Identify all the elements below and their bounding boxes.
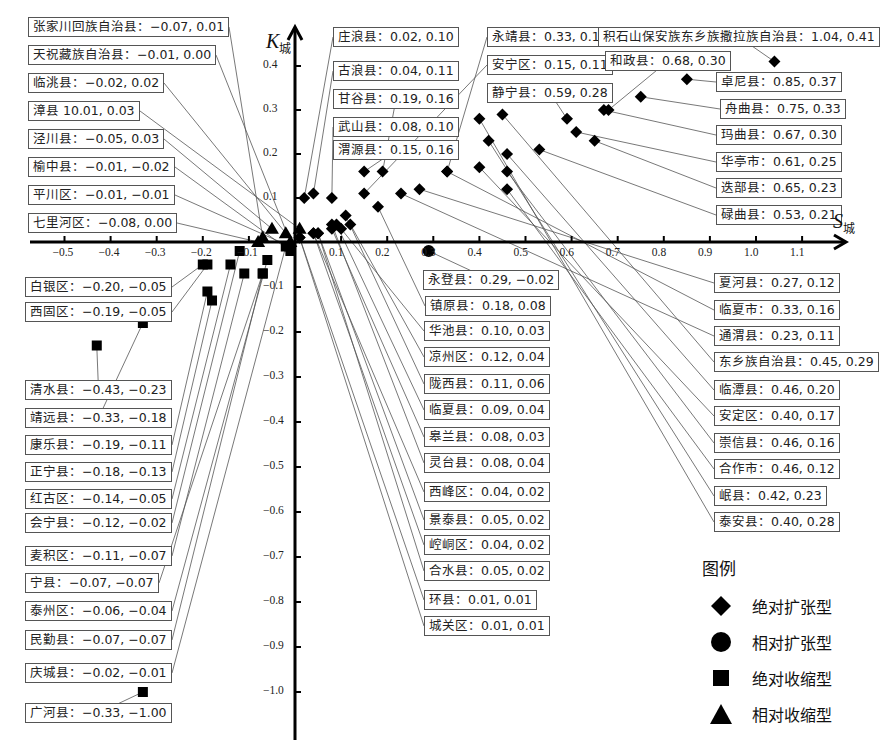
point-label: 灵台县：0.08, 0.04	[424, 453, 550, 473]
point-label: 七里河区：−0.08, 0.00	[28, 213, 177, 233]
point-label: 崆峒区：0.04, 0.02	[424, 535, 550, 555]
leader-line	[350, 224, 424, 357]
y-tick-label: 0.1	[263, 190, 277, 202]
square-marker	[225, 260, 235, 270]
x-tick-label: 0.4	[467, 246, 481, 258]
x-tick-label: −0.4	[99, 246, 120, 258]
point-label: 永靖县：0.33, 0.16	[487, 27, 613, 47]
x-axis-title: S城	[833, 210, 855, 236]
diamond-marker	[561, 113, 573, 125]
x-tick-label: 1.1	[790, 246, 804, 258]
leader-line	[332, 127, 333, 198]
leader-line	[304, 37, 333, 198]
diamond-icon	[710, 595, 732, 617]
point-label: 广河县：−0.33, −1.00	[25, 703, 172, 723]
square-marker	[202, 260, 212, 270]
x-tick-label: 0.5	[514, 246, 528, 258]
point-label: 迭部县：0.65, 0.23	[716, 178, 842, 198]
x-tick-label: 0.7	[606, 246, 620, 258]
point-label: 景泰县：0.05, 0.02	[424, 510, 550, 530]
point-label: 临夏市：0.33, 0.16	[714, 300, 840, 320]
point-label: 庆城县：−0.02, −0.01	[25, 663, 172, 683]
legend-item-absolute-expansion: 绝对扩张型	[702, 588, 882, 624]
triangle-icon	[710, 703, 732, 725]
leader-line	[576, 132, 716, 162]
point-label: 华池县：0.10, 0.03	[424, 321, 550, 341]
legend: 图例 绝对扩张型 相对扩张型 绝对收缩型 相对收缩型	[702, 555, 882, 732]
leader-line	[595, 141, 716, 188]
diamond-marker	[635, 91, 647, 103]
point-label: 泰安县：0.40, 0.28	[714, 512, 840, 532]
point-label: 临洮县：−0.02, 0.02	[28, 73, 164, 93]
diamond-marker	[413, 183, 425, 195]
point-label: 合作市：0.46, 0.12	[714, 459, 840, 479]
point-label: 临潭县：0.46, 0.20	[714, 380, 840, 400]
x-tick-label: 1.0	[744, 246, 758, 258]
square-marker	[207, 296, 217, 306]
point-label: 碌曲县：0.53, 0.21	[716, 205, 842, 225]
leader-line	[172, 265, 207, 313]
legend-title: 图例	[702, 555, 882, 580]
point-label: 夏河县：0.27, 0.12	[714, 273, 840, 293]
y-tick-label: 0.3	[263, 102, 277, 114]
point-label: 白银区：−0.20, −0.05	[25, 277, 172, 297]
point-label: 和政县：0.68, 0.30	[605, 51, 731, 71]
leader-line	[159, 274, 263, 584]
x-tick-label: −0.1	[237, 246, 258, 258]
leader-line	[177, 223, 258, 242]
point-label: 皋兰县：0.08, 0.03	[424, 427, 550, 447]
point-label: 舟曲县：0.75, 0.33	[720, 99, 846, 119]
diamond-marker	[441, 166, 453, 178]
legend-label: 相对收缩型	[752, 702, 832, 726]
y-tick-label: −0.2	[263, 324, 284, 336]
y-tick-label: −0.1	[263, 279, 284, 291]
point-label: 合水县：0.05, 0.02	[424, 561, 550, 581]
leader-line	[300, 238, 424, 600]
x-tick-label: 0.9	[698, 246, 712, 258]
y-tick-label: −0.3	[263, 369, 284, 381]
y-tick-label: −0.8	[263, 594, 284, 606]
point-label: 临夏县：0.09, 0.04	[424, 400, 550, 420]
point-label: 泰州区：−0.06, −0.04	[25, 601, 172, 621]
diamond-marker	[358, 166, 370, 178]
point-label: 会宁县：−0.12, −0.02	[25, 513, 172, 533]
point-label: 麦积区：−0.11, −0.07	[25, 546, 172, 566]
diamond-marker	[473, 113, 485, 125]
point-label: 漳县 10.01, 0.03	[28, 101, 140, 121]
point-label: 安宁区：0.15, 0.11	[487, 55, 613, 75]
diamond-marker	[570, 126, 582, 138]
legend-item-relative-expansion: 相对扩张型	[702, 624, 882, 660]
point-label: 甘谷县：0.19, 0.16	[333, 89, 459, 109]
point-label: 宁县：−0.07, −0.07	[25, 573, 159, 593]
y-tick-label: 0.4	[263, 58, 277, 70]
point-label: 正宁县：−0.18, −0.13	[25, 462, 172, 482]
point-label: 积石山保安族东乡族撒拉族自治县：1.04, 0.41	[598, 27, 880, 47]
leader-line	[313, 71, 333, 194]
point-label: 西峰区：0.04, 0.02	[424, 482, 550, 502]
point-label: 康乐县：−0.19, −0.11	[25, 435, 172, 455]
x-tick-label: 0.3	[421, 246, 435, 258]
leader-line	[172, 274, 263, 641]
leader-line	[99, 323, 143, 418]
square-marker	[258, 269, 268, 279]
point-label: 卓尼县：0.85, 0.37	[716, 72, 842, 92]
diamond-marker	[768, 56, 780, 68]
diamond-marker	[395, 188, 407, 200]
leader-line	[172, 292, 207, 446]
point-label: 张家川回族自治县：−0.07, 0.01	[28, 17, 229, 37]
x-tick-label: −0.2	[191, 246, 212, 258]
point-label: 泾川县：−0.05, 0.03	[28, 129, 164, 149]
point-label: 清水县：−0.43, −0.23	[25, 380, 172, 400]
y-tick-label: −0.4	[263, 414, 284, 426]
point-label: 通渭县：0.23, 0.11	[714, 326, 840, 346]
point-label: 镇原县：0.18, 0.08	[425, 296, 551, 316]
x-tick-label: 0.8	[652, 246, 666, 258]
leader-line	[318, 233, 424, 571]
triangle-marker	[265, 222, 279, 234]
point-label: 静宁县：0.59, 0.28	[487, 83, 613, 103]
diamond-marker	[326, 192, 338, 204]
x-tick-label: −0.3	[145, 246, 166, 258]
square-marker	[92, 341, 102, 351]
y-tick-label: −0.7	[263, 549, 284, 561]
y-tick-label: −0.6	[263, 504, 284, 516]
